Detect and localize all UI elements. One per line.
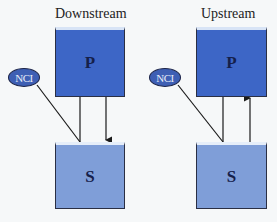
p-label: P: [226, 53, 236, 73]
s-box-upstream: S: [196, 142, 267, 209]
nci-ellipse-upstream: NCI: [149, 68, 181, 87]
panel-title-downstream: Downstream: [55, 6, 127, 22]
panel-title-upstream: Upstream: [201, 6, 255, 22]
p-label: P: [85, 53, 95, 73]
p-box-upstream: P: [196, 27, 267, 97]
s-label: S: [85, 167, 94, 187]
nci-label: NCI: [156, 72, 173, 84]
nci-ellipse-downstream: NCI: [8, 68, 40, 87]
nci-label: NCI: [15, 72, 32, 84]
s-box-downstream: S: [55, 142, 125, 209]
s-label: S: [227, 167, 236, 187]
p-box-downstream: P: [55, 27, 125, 97]
